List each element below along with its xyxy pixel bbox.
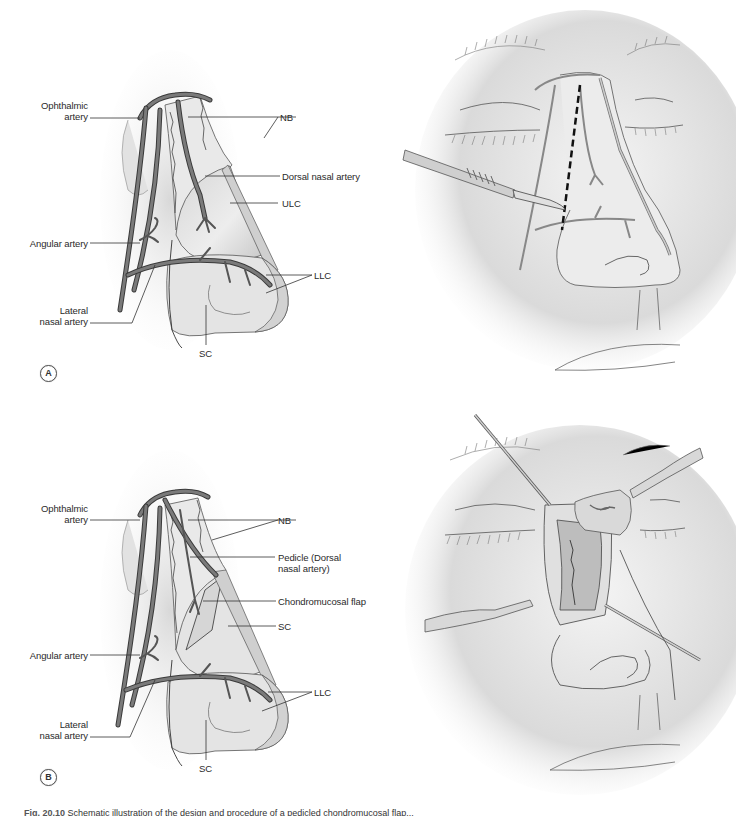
incision-illustration [395, 0, 736, 380]
label-line-1: Ophthalmic [20, 100, 88, 111]
label-sc: SC [199, 763, 212, 774]
nose-anatomy-diagram-a [0, 0, 390, 390]
label-ulc: ULC [282, 198, 301, 209]
label-dorsal-nasal-artery: Dorsal nasal artery [282, 171, 360, 182]
label-ophthalmic-artery: Ophthalmic artery [20, 100, 88, 122]
label-sc: SC [199, 348, 212, 359]
label-llc: LLC [314, 270, 331, 281]
label-llc: LLC [314, 687, 331, 698]
caption-text: Schematic illustration of the design and… [68, 808, 414, 816]
label-nb: NB [278, 515, 291, 526]
label-ophthalmic-artery: Ophthalmic artery [20, 503, 88, 525]
label-line-2: artery [20, 514, 88, 525]
panel-a-badge: A [40, 365, 57, 382]
label-sc-upper: SC [278, 621, 291, 632]
label-angular-artery: Angular artery [10, 650, 88, 661]
label-pedicle-dorsal-nasal-artery: Pedicle (Dorsal nasal artery) [278, 552, 341, 574]
label-line-2: artery [20, 111, 88, 122]
label-line-2: nasal artery [10, 316, 88, 327]
label-lateral-nasal-artery: Lateral nasal artery [10, 719, 88, 741]
label-angular-artery: Angular artery [10, 238, 88, 249]
figure-caption: Fig. 20.10 Schematic illustration of the… [24, 806, 724, 816]
label-line-1: Lateral [10, 305, 88, 316]
flap-elevation-illustration [395, 410, 736, 790]
label-line-1: Lateral [10, 719, 88, 730]
panel-b-surgical-illustration [395, 410, 736, 790]
panel-a-surgical-illustration [395, 0, 736, 380]
label-line-2: nasal artery) [278, 563, 341, 574]
caption-label: Fig. 20.10 [24, 808, 65, 816]
panel-a-schematic: Ophthalmic artery NB Dorsal nasal artery… [0, 0, 390, 390]
label-nb: NB [280, 112, 293, 123]
label-line-1: Pedicle (Dorsal [278, 552, 341, 563]
label-line-2: nasal artery [10, 730, 88, 741]
panel-b-schematic: Ophthalmic artery NB Pedicle (Dorsal nas… [0, 400, 390, 800]
panel-b-badge: B [40, 769, 57, 786]
label-lateral-nasal-artery: Lateral nasal artery [10, 305, 88, 327]
label-chondromucosal-flap: Chondromucosal flap [278, 596, 366, 607]
label-line-1: Ophthalmic [20, 503, 88, 514]
